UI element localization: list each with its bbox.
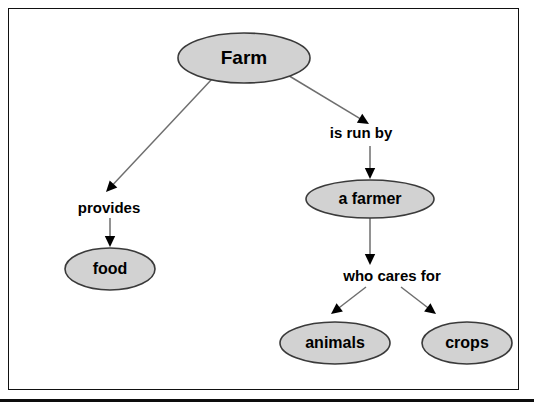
node-label: crops <box>445 334 489 351</box>
node-label: Farm <box>221 47 267 68</box>
node-label: food <box>93 260 128 277</box>
edge-farmer-to-who-cares-for <box>365 217 375 265</box>
node-farm[interactable]: Farm <box>178 33 310 83</box>
arrow-head <box>424 303 436 314</box>
node-label: animals <box>305 334 365 351</box>
node-animals[interactable]: animals <box>280 322 390 364</box>
concept-map: Farmfooda farmeranimalscrops providesis … <box>0 0 534 409</box>
edge-farm-to-is-run-by <box>286 74 369 124</box>
node-food[interactable]: food <box>65 248 155 290</box>
edge-who-cares-for-to-animals <box>331 287 366 314</box>
edge-line <box>112 79 212 185</box>
node-label: a farmer <box>338 190 401 207</box>
node-crops[interactable]: crops <box>422 322 512 364</box>
edge-farm-to-provides <box>106 79 212 192</box>
arrow-head <box>357 114 369 124</box>
diagram-canvas: Farmfooda farmeranimalscrops providesis … <box>0 0 534 409</box>
edge-provides-to-food <box>105 218 115 247</box>
arrow-head <box>365 254 375 265</box>
edge-label-provides: provides <box>78 199 141 216</box>
edge-line <box>401 287 429 309</box>
arrow-head <box>331 303 343 314</box>
edge-who-cares-for-to-crops <box>401 287 436 314</box>
edge-line <box>286 74 361 119</box>
edge-label-who-cares-for: who cares for <box>342 267 441 284</box>
edge-label-is-run-by: is run by <box>330 124 393 141</box>
edge-is-run-by-to-farmer <box>365 146 375 179</box>
arrow-head <box>365 168 375 179</box>
node-farmer[interactable]: a farmer <box>306 180 434 218</box>
edge-line <box>338 287 366 309</box>
arrow-head <box>105 236 115 247</box>
